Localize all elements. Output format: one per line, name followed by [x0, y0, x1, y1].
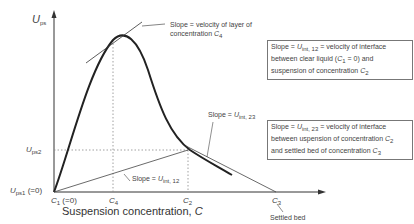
y-axis-label: Ups — [32, 14, 46, 26]
slope12-explanation-box: Slope = Uint, 12 = velocity of interface… — [267, 40, 413, 80]
flux-curve — [54, 35, 232, 192]
x-tick-c3: C3 — [272, 197, 281, 206]
x-axis-title: Suspension concentration, C — [62, 205, 203, 217]
slope23-leader — [207, 122, 213, 157]
x-axis-arrow-icon — [318, 190, 326, 195]
settled-bed-label: Settled bed — [270, 214, 305, 221]
y-axis-arrow-icon — [52, 10, 57, 18]
slope12-annotation: Slope = Uint, 12 — [132, 175, 179, 184]
slope12-line — [54, 150, 188, 192]
slope12-leader — [124, 174, 130, 181]
tangent-leader — [142, 24, 165, 26]
tangent-annotation: Slope = velocity of layer of concentrati… — [170, 20, 252, 41]
y-tick-ups2: Ups2 — [26, 146, 41, 155]
slope23-explanation-box: Slope = Uint, 23 = velocity of interface… — [267, 120, 413, 160]
y-tick-ups1: Ups1 (=0) — [10, 187, 42, 196]
slope23-line — [186, 146, 276, 192]
slope23-annotation: Slope = Uint, 23 — [208, 111, 255, 120]
